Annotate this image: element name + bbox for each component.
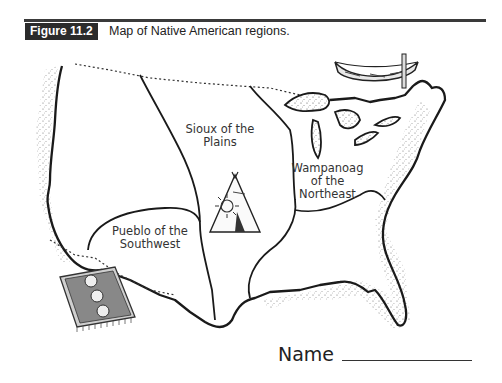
- name-field: Name: [278, 343, 472, 365]
- region-label-wampanoag: Wampanoag of the Northeast: [290, 162, 365, 201]
- region-label-sioux: Sioux of the Plains: [180, 123, 260, 149]
- canoe-icon: [330, 50, 425, 95]
- west-divider: [140, 75, 215, 320]
- wampanoag-label-line3: Northeast: [290, 188, 365, 201]
- sioux-label-line2: Plains: [180, 136, 260, 149]
- pueblo-label-line2: Southwest: [105, 238, 195, 251]
- name-label: Name: [278, 343, 334, 365]
- name-blank-line[interactable]: [342, 343, 472, 361]
- great-lakes: [285, 93, 400, 158]
- rug-icon: [55, 265, 145, 333]
- teepee-icon: [205, 170, 265, 238]
- region-label-pueblo: Pueblo of the Southwest: [105, 225, 195, 251]
- northern-border: [75, 64, 300, 95]
